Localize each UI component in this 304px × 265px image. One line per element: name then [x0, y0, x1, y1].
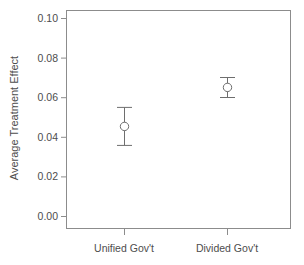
x-axis-tick-labels: Unified Gov't Divided Gov't: [0, 0, 304, 265]
x-tick-label-unified-govt: Unified Gov't: [94, 242, 154, 254]
chart-figure: Average Treatment Effect 0.10 0.08 0.06 …: [0, 0, 304, 265]
x-tick-label-divided-govt: Divided Gov't: [196, 242, 258, 254]
